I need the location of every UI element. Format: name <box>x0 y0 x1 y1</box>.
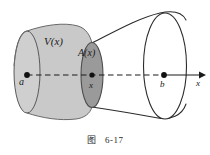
caption-prefix: 图 <box>87 135 97 145</box>
x-axis-arrowhead <box>199 72 206 79</box>
point-x-label: x <box>89 81 93 90</box>
point-x-dot <box>89 72 94 77</box>
point-b-label: b <box>160 80 165 89</box>
volume-function-label: V(x) <box>44 36 63 47</box>
area-function-label: A(x) <box>78 48 95 58</box>
solid-of-revolution-diagram <box>0 0 210 155</box>
right-end-ellipse <box>144 13 187 119</box>
caption-number: 6-17 <box>105 135 124 145</box>
point-a-label: a <box>19 77 24 87</box>
point-a-dot <box>24 72 30 78</box>
point-b-dot <box>161 72 167 78</box>
x-axis-label: x <box>196 79 200 88</box>
figure-container: V(x) A(x) a x b x 图6-17 <box>0 0 210 155</box>
figure-caption: 图6-17 <box>0 133 210 146</box>
right-solid-group <box>92 12 187 119</box>
